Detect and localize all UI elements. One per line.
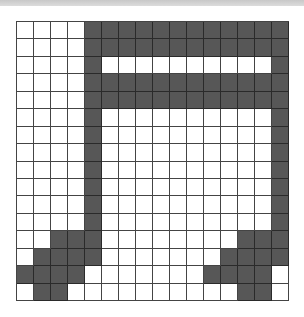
grid-cell[interactable]	[187, 127, 204, 144]
grid-cell[interactable]	[51, 57, 68, 74]
grid-cell[interactable]	[34, 266, 51, 283]
grid-cell[interactable]	[170, 39, 187, 56]
grid-cell[interactable]	[102, 127, 119, 144]
grid-cell[interactable]	[102, 144, 119, 161]
grid-cell[interactable]	[102, 196, 119, 213]
grid-cell[interactable]	[68, 231, 85, 248]
grid-cell[interactable]	[51, 127, 68, 144]
grid-cell[interactable]	[187, 266, 204, 283]
grid-cell[interactable]	[102, 109, 119, 126]
grid-cell[interactable]	[238, 74, 255, 91]
grid-cell[interactable]	[272, 231, 289, 248]
grid-cell[interactable]	[153, 266, 170, 283]
grid-cell[interactable]	[136, 214, 153, 231]
grid-cell[interactable]	[238, 22, 255, 39]
grid-cell[interactable]	[136, 22, 153, 39]
grid-cell[interactable]	[68, 39, 85, 56]
grid-cell[interactable]	[119, 22, 136, 39]
grid-cell[interactable]	[136, 74, 153, 91]
grid-cell[interactable]	[153, 57, 170, 74]
grid-cell[interactable]	[85, 127, 102, 144]
grid-cell[interactable]	[221, 266, 238, 283]
grid-cell[interactable]	[221, 179, 238, 196]
grid-cell[interactable]	[136, 92, 153, 109]
grid-cell[interactable]	[153, 22, 170, 39]
grid-cell[interactable]	[272, 39, 289, 56]
grid-cell[interactable]	[119, 74, 136, 91]
grid-cell[interactable]	[119, 179, 136, 196]
grid-cell[interactable]	[85, 284, 102, 301]
grid-cell[interactable]	[85, 144, 102, 161]
grid-cell[interactable]	[51, 249, 68, 266]
grid-cell[interactable]	[17, 57, 34, 74]
grid-cell[interactable]	[272, 109, 289, 126]
grid-cell[interactable]	[102, 39, 119, 56]
grid-cell[interactable]	[17, 162, 34, 179]
grid-cell[interactable]	[221, 74, 238, 91]
grid-cell[interactable]	[153, 179, 170, 196]
grid-cell[interactable]	[119, 266, 136, 283]
grid-cell[interactable]	[204, 39, 221, 56]
grid-cell[interactable]	[119, 231, 136, 248]
grid-cell[interactable]	[51, 74, 68, 91]
grid-cell[interactable]	[170, 179, 187, 196]
grid-cell[interactable]	[136, 144, 153, 161]
grid-cell[interactable]	[255, 92, 272, 109]
grid-cell[interactable]	[136, 249, 153, 266]
grid-cell[interactable]	[153, 74, 170, 91]
grid-cell[interactable]	[221, 284, 238, 301]
grid-cell[interactable]	[51, 231, 68, 248]
grid-cell[interactable]	[170, 266, 187, 283]
grid-cell[interactable]	[102, 214, 119, 231]
grid-cell[interactable]	[51, 22, 68, 39]
grid-cell[interactable]	[255, 214, 272, 231]
grid-cell[interactable]	[187, 74, 204, 91]
grid-cell[interactable]	[238, 109, 255, 126]
grid-cell[interactable]	[119, 127, 136, 144]
grid-cell[interactable]	[272, 284, 289, 301]
grid-cell[interactable]	[119, 109, 136, 126]
grid-cell[interactable]	[238, 127, 255, 144]
grid-cell[interactable]	[68, 162, 85, 179]
grid-cell[interactable]	[204, 231, 221, 248]
grid-cell[interactable]	[34, 144, 51, 161]
grid-cell[interactable]	[136, 109, 153, 126]
grid-cell[interactable]	[102, 92, 119, 109]
grid-cell[interactable]	[238, 249, 255, 266]
grid-cell[interactable]	[34, 179, 51, 196]
grid-cell[interactable]	[170, 284, 187, 301]
grid-cell[interactable]	[204, 74, 221, 91]
grid-cell[interactable]	[204, 196, 221, 213]
grid-cell[interactable]	[187, 92, 204, 109]
grid-cell[interactable]	[102, 74, 119, 91]
grid-cell[interactable]	[272, 144, 289, 161]
grid-cell[interactable]	[68, 74, 85, 91]
grid-cell[interactable]	[102, 162, 119, 179]
grid-cell[interactable]	[136, 127, 153, 144]
grid-cell[interactable]	[17, 39, 34, 56]
grid-cell[interactable]	[255, 22, 272, 39]
grid-cell[interactable]	[51, 144, 68, 161]
grid-cell[interactable]	[204, 249, 221, 266]
grid-cell[interactable]	[68, 127, 85, 144]
grid-cell[interactable]	[119, 57, 136, 74]
grid-cell[interactable]	[85, 109, 102, 126]
grid-cell[interactable]	[102, 249, 119, 266]
grid-cell[interactable]	[272, 22, 289, 39]
grid-cell[interactable]	[153, 249, 170, 266]
grid-cell[interactable]	[17, 231, 34, 248]
grid-cell[interactable]	[255, 109, 272, 126]
grid-cell[interactable]	[102, 22, 119, 39]
grid-cell[interactable]	[136, 179, 153, 196]
grid-cell[interactable]	[34, 249, 51, 266]
grid-cell[interactable]	[255, 249, 272, 266]
grid-cell[interactable]	[34, 127, 51, 144]
grid-cell[interactable]	[68, 266, 85, 283]
grid-cell[interactable]	[51, 179, 68, 196]
grid-cell[interactable]	[136, 196, 153, 213]
grid-cell[interactable]	[255, 266, 272, 283]
grid-cell[interactable]	[221, 249, 238, 266]
grid-cell[interactable]	[119, 144, 136, 161]
grid-cell[interactable]	[85, 57, 102, 74]
grid-cell[interactable]	[272, 196, 289, 213]
